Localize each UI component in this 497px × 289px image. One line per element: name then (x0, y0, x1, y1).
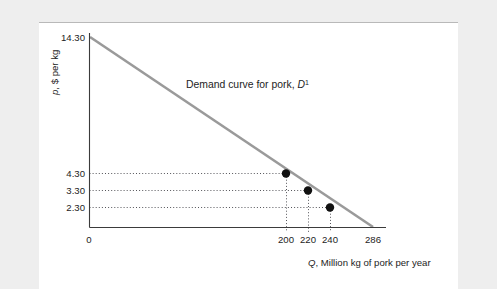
data-points (282, 169, 334, 211)
axes (90, 33, 387, 228)
y-axis-title: p, $ per kg (49, 50, 60, 96)
data-point-marker (326, 203, 334, 211)
demand-curve-chart: 14.30 4.30 3.30 2.30 0 200 220 240 286 D… (0, 0, 497, 289)
demand-curve-label-text: Demand curve for pork, (186, 79, 297, 90)
x-tick-label-220: 220 (300, 234, 316, 245)
x-tick-label-200: 200 (278, 234, 294, 245)
x-tick-labels: 200 220 240 286 (278, 234, 381, 245)
demand-curve-label-superscript: 1 (305, 79, 309, 86)
y-tick-label-230: 2.30 (66, 202, 85, 213)
data-point-marker (282, 169, 290, 177)
x-axis-title-rest: , Million kg of pork per year (315, 257, 431, 268)
origin-label: 0 (86, 234, 91, 245)
figure-root: 14.30 4.30 3.30 2.30 0 200 220 240 286 D… (0, 0, 497, 289)
y-tick-label-330: 3.30 (66, 185, 85, 196)
x-axis-title: Q, Million kg of pork per year (308, 257, 431, 268)
y-axis-title-rest: , $ per kg (49, 50, 60, 90)
demand-curve-label: Demand curve for pork, D1 (186, 79, 309, 90)
y-tick-label-430: 4.30 (66, 168, 85, 179)
x-tick-label-286: 286 (365, 234, 381, 245)
leader-lines (90, 174, 331, 233)
x-tick-label-240: 240 (322, 234, 338, 245)
data-point-marker (304, 186, 312, 194)
y-tick-label-1430: 14.30 (61, 32, 85, 43)
demand-curve-line (90, 37, 373, 227)
y-tick-labels: 14.30 4.30 3.30 2.30 (61, 32, 85, 214)
